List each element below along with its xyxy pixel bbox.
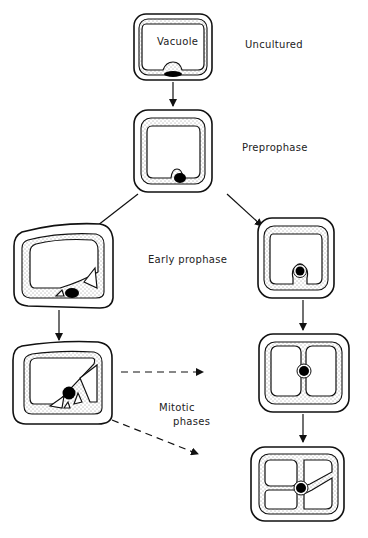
nucleus-icon [174, 173, 186, 183]
nucleus-icon [296, 267, 305, 276]
cell-preprophase [134, 110, 212, 192]
nucleus-icon [296, 483, 306, 493]
cell-right-final [251, 447, 344, 521]
label-early-prophase: Early prophase [148, 254, 227, 265]
arrow-to-right-prophase [227, 194, 262, 226]
label-uncultured: Uncultured [245, 39, 303, 50]
cell-division-diagram [0, 0, 368, 538]
nucleus-icon [299, 366, 309, 376]
label-phases: phases [173, 416, 210, 427]
label-mitotic: Mitotic [159, 402, 195, 413]
cell-early-prophase-left [14, 224, 113, 308]
nucleus-icon [65, 288, 79, 298]
nucleus-icon [164, 71, 182, 77]
nucleus-icon [63, 387, 76, 400]
cell-right-phragmosome [259, 334, 349, 412]
cell-left-mitotic [13, 342, 112, 425]
cell-early-prophase-right [258, 218, 334, 298]
cell-uncultured [134, 14, 212, 80]
label-vacuole: Vacuole [157, 36, 198, 47]
label-preprophase: Preprophase [242, 142, 308, 153]
